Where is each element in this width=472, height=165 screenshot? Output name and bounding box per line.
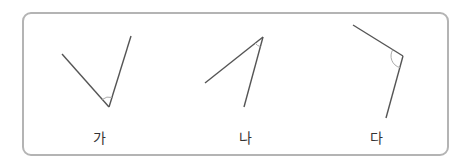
angle-na	[205, 37, 263, 107]
label-na: 나	[239, 127, 252, 147]
label-da: 다	[370, 127, 383, 147]
angle-da	[353, 25, 403, 118]
angle-ga	[62, 36, 131, 107]
label-ga: 가	[93, 127, 106, 147]
angles-diagram	[0, 0, 472, 165]
